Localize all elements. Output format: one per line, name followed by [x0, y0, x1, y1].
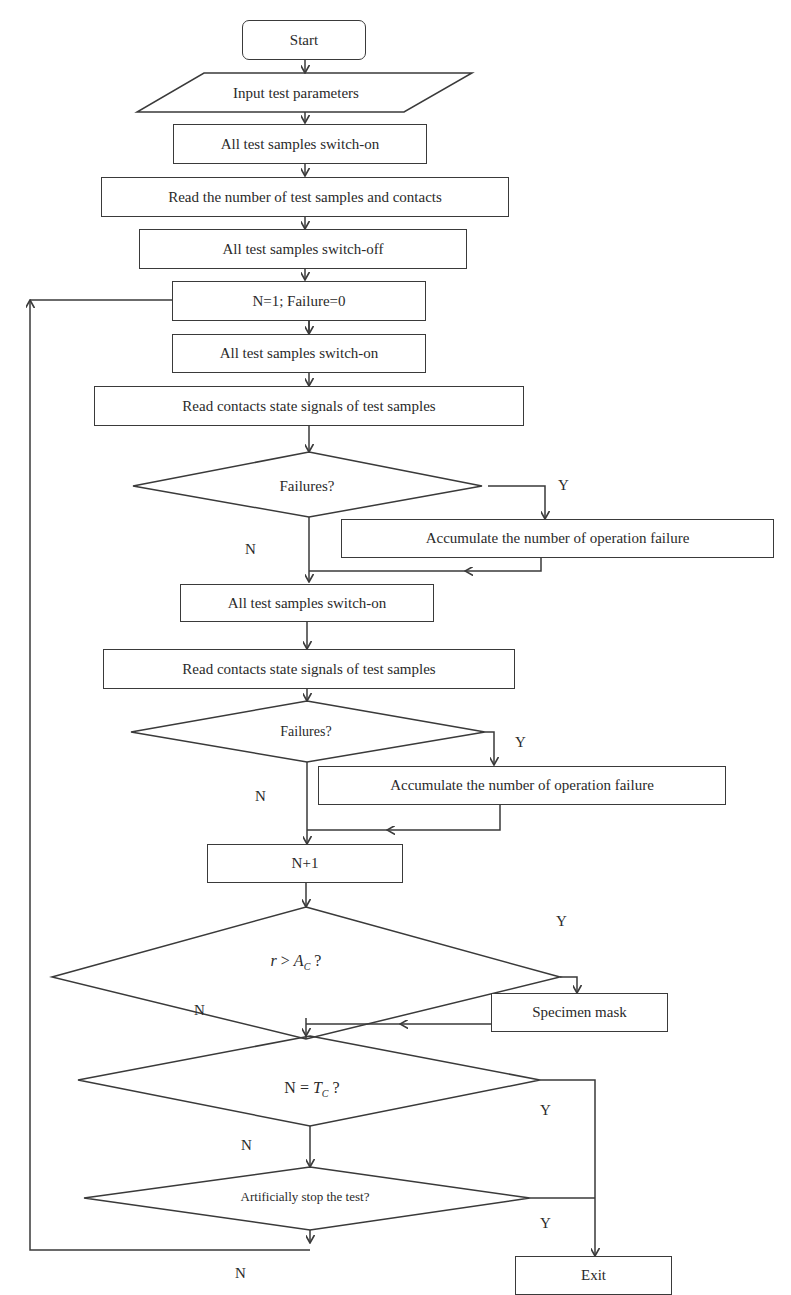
switch-on-node-2: All test samples switch-on — [172, 334, 426, 373]
switch-on-label-2: All test samples switch-on — [220, 345, 379, 362]
specimen-mask-label: Specimen mask — [532, 1004, 627, 1021]
increment-node: N+1 — [207, 844, 403, 883]
read-number-node: Read the number of test samples and cont… — [101, 177, 509, 217]
accumulate-node-1: Accumulate the number of operation failu… — [341, 519, 774, 558]
a-variable: A — [294, 952, 304, 969]
a-subscript: C — [304, 961, 311, 972]
read-state-label-1: Read contacts state signals of test samp… — [182, 398, 435, 415]
branch-yes-label: Y — [556, 913, 567, 930]
specimen-mask-node: Specimen mask — [491, 993, 668, 1032]
accumulate-label-1: Accumulate the number of operation failu… — [426, 530, 690, 547]
init-node: N=1; Failure=0 — [172, 281, 426, 321]
branch-no-label: N — [194, 1002, 205, 1019]
decision-r-label: r > AC ? — [271, 952, 322, 972]
n-variable: N = — [284, 1079, 313, 1096]
branch-yes-label: Y — [540, 1215, 551, 1232]
read-state-node-2: Read contacts state signals of test samp… — [103, 649, 515, 689]
exit-label: Exit — [581, 1267, 606, 1284]
switch-on-node-1: All test samples switch-on — [173, 124, 427, 164]
start-label: Start — [290, 32, 318, 49]
input-node-label: Input test parameters — [233, 85, 359, 102]
increment-label: N+1 — [292, 855, 319, 872]
exit-node: Exit — [515, 1256, 672, 1295]
start-node: Start — [242, 20, 366, 60]
branch-yes-label: Y — [540, 1102, 551, 1119]
read-state-label-2: Read contacts state signals of test samp… — [182, 661, 435, 678]
decision-failures-2-label: Failures? — [280, 724, 331, 740]
read-number-label: Read the number of test samples and cont… — [168, 189, 442, 206]
branch-yes-label: Y — [515, 734, 526, 751]
question-mark: ? — [310, 952, 321, 969]
init-label: N=1; Failure=0 — [252, 293, 345, 310]
operator-gt: > — [277, 952, 294, 969]
switch-on-label-3: All test samples switch-on — [228, 595, 387, 612]
accumulate-label-2: Accumulate the number of operation failu… — [390, 777, 654, 794]
branch-no-label: N — [255, 788, 266, 805]
switch-on-label-1: All test samples switch-on — [221, 136, 380, 153]
flowchart-canvas: Start Input test parameters All test sam… — [0, 0, 791, 1295]
switch-on-node-3: All test samples switch-on — [180, 584, 434, 622]
switch-off-label: All test samples switch-off — [223, 241, 384, 258]
question-mark: ? — [329, 1079, 340, 1096]
decision-stop-label: Artificially stop the test? — [241, 1189, 370, 1205]
branch-yes-label: Y — [558, 477, 569, 494]
decision-n-label: N = TC ? — [284, 1079, 339, 1099]
read-state-node-1: Read contacts state signals of test samp… — [94, 386, 524, 426]
accumulate-node-2: Accumulate the number of operation failu… — [318, 766, 726, 805]
branch-no-label: N — [235, 1265, 246, 1282]
branch-no-label: N — [245, 541, 256, 558]
decision-failures-1-label: Failures? — [280, 478, 335, 495]
switch-off-node: All test samples switch-off — [139, 229, 467, 269]
branch-no-label: N — [241, 1137, 252, 1154]
